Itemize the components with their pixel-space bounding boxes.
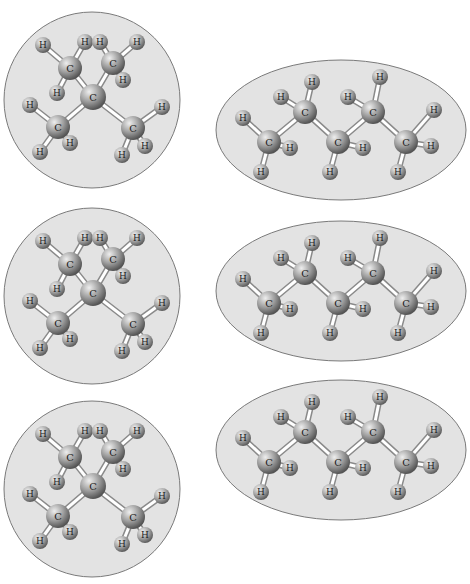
molecule-diagram: H H H H H H H H H H H H C C C C C bbox=[0, 0, 470, 584]
linear-molecule-2 bbox=[216, 221, 466, 361]
linear-molecule-1 bbox=[216, 60, 466, 200]
linear-molecule-3 bbox=[216, 380, 466, 520]
branched-molecule-2 bbox=[4, 208, 180, 384]
branched-molecule-3 bbox=[4, 401, 180, 577]
branched-molecule-1 bbox=[4, 12, 180, 188]
